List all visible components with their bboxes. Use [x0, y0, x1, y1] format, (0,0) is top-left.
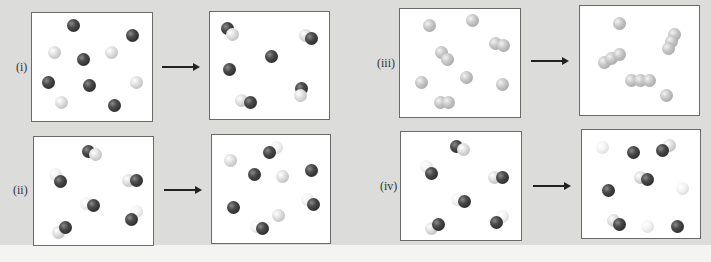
bottom-band: [0, 245, 711, 262]
reaction-arrow-icon: [162, 66, 198, 68]
dark-atom-icon: [671, 220, 684, 233]
light-atom-icon: [276, 170, 289, 183]
dark-atom-icon: [67, 19, 80, 32]
dark-atom-icon: [265, 50, 278, 63]
reaction-arrow-icon: [164, 189, 200, 191]
light-atom-icon: [105, 46, 118, 59]
grey-atom-icon: [441, 53, 454, 66]
reaction-label: (i): [16, 60, 27, 75]
grey-atom-icon: [662, 42, 675, 55]
dark-atom-icon: [59, 221, 72, 234]
light-atom-icon: [226, 28, 239, 41]
grey-atom-icon: [613, 48, 626, 61]
grey-atom-icon: [613, 17, 626, 30]
dark-atom-icon: [223, 63, 236, 76]
dark-atom-icon: [87, 199, 100, 212]
grey-atom-icon: [460, 71, 473, 84]
dark-atom-icon: [130, 174, 143, 187]
dark-atom-icon: [458, 195, 471, 208]
dark-atom-icon: [248, 168, 261, 181]
dark-atom-icon: [656, 144, 669, 157]
reaction-arrow-icon: [533, 185, 569, 187]
dark-atom-icon: [496, 171, 509, 184]
dark-atom-icon: [425, 167, 438, 180]
dark-atom-icon: [263, 146, 276, 159]
dark-atom-icon: [54, 175, 67, 188]
dark-atom-icon: [307, 198, 320, 211]
dark-atom-icon: [244, 96, 257, 109]
grey-atom-icon: [497, 39, 510, 52]
grey-atom-icon: [466, 14, 479, 27]
light-atom-icon: [294, 89, 307, 102]
reaction-label: (iii): [377, 56, 395, 71]
grey-atom-icon: [643, 74, 656, 87]
grey-atom-icon: [442, 96, 455, 109]
reactants-box: [399, 8, 521, 118]
white-atom-icon: [676, 182, 689, 195]
grey-atom-icon: [496, 78, 509, 91]
light-atom-icon: [55, 96, 68, 109]
reaction-label: (ii): [13, 183, 28, 198]
dark-atom-icon: [602, 184, 615, 197]
reaction-label: (iv): [380, 179, 397, 194]
dark-atom-icon: [305, 164, 318, 177]
light-atom-icon: [272, 209, 285, 222]
dark-atom-icon: [83, 79, 96, 92]
light-atom-icon: [130, 76, 143, 89]
grey-atom-icon: [660, 89, 673, 102]
dark-atom-icon: [432, 218, 445, 231]
dark-atom-icon: [256, 222, 269, 235]
dark-atom-icon: [613, 218, 626, 231]
white-atom-icon: [641, 220, 654, 233]
dark-atom-icon: [77, 53, 90, 66]
dark-atom-icon: [227, 201, 240, 214]
dark-atom-icon: [108, 99, 121, 112]
grey-atom-icon: [423, 19, 436, 32]
dark-atom-icon: [641, 173, 654, 186]
dark-atom-icon: [125, 213, 138, 226]
white-atom-icon: [596, 141, 609, 154]
dark-atom-icon: [42, 76, 55, 89]
light-atom-icon: [457, 143, 470, 156]
dark-atom-icon: [627, 146, 640, 159]
light-atom-icon: [224, 154, 237, 167]
dark-atom-icon: [126, 29, 139, 42]
dark-atom-icon: [305, 32, 318, 45]
grey-atom-icon: [415, 76, 428, 89]
dark-atom-icon: [490, 216, 503, 229]
light-atom-icon: [48, 46, 61, 59]
reaction-arrow-icon: [531, 60, 567, 62]
light-atom-icon: [89, 148, 102, 161]
